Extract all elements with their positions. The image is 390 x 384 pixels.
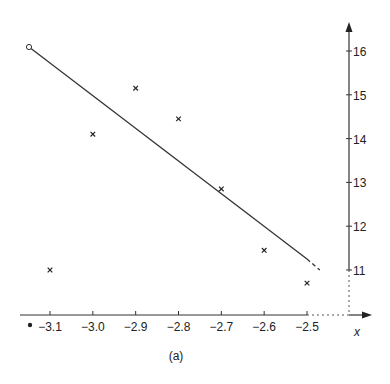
fitted-line: [29, 47, 307, 259]
filled-dot-marker: [28, 323, 32, 327]
x-tick-label: −2.9: [124, 320, 148, 334]
y-tick-label: 11: [353, 264, 366, 278]
data-point-x-marker: [91, 132, 96, 137]
data-point-x-marker: [305, 281, 310, 286]
x-axis-arrow-icon: [362, 312, 372, 319]
y-tick-label: 12: [353, 220, 367, 234]
series: [26, 44, 319, 327]
data-point-x-marker: [176, 117, 181, 122]
x-tick-label: −3.0: [81, 320, 105, 334]
y-tick-label: 16: [353, 45, 367, 59]
data-point-x-marker: [48, 268, 53, 273]
x-tick-label: −2.5: [295, 320, 319, 334]
axes: [20, 22, 372, 319]
y-tick-label: 13: [353, 176, 367, 190]
open-circle-marker: [26, 44, 31, 49]
x-tick-label: −2.6: [252, 320, 276, 334]
chart: −3.1−3.0−2.9−2.8−2.7−2.6−2.5111213141516…: [0, 0, 390, 384]
data-point-x-marker: [219, 187, 224, 192]
y-axis-arrow-icon: [346, 22, 353, 32]
x-tick-label: −2.8: [167, 320, 191, 334]
x-tick-label: −2.7: [209, 320, 233, 334]
x-axis-label: x: [353, 325, 361, 339]
figure-caption: (a): [169, 349, 184, 363]
x-tick-label: −3.1: [38, 320, 62, 334]
y-tick-label: 15: [353, 89, 367, 103]
data-point-x-marker: [133, 86, 138, 91]
y-tick-label: 14: [353, 133, 367, 147]
fitted-line-dashed-extension: [307, 259, 320, 270]
data-point-x-marker: [262, 248, 267, 253]
